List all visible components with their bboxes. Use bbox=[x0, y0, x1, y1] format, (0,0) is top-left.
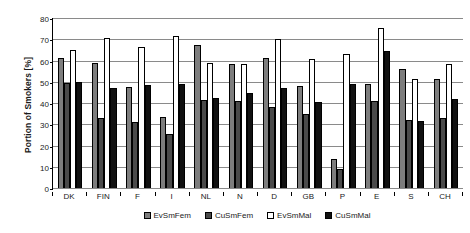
x-axis-label-S: S bbox=[394, 192, 428, 201]
y-tick-label-20: 20 bbox=[40, 142, 49, 151]
x-tick-F bbox=[120, 192, 121, 196]
bar-group-CH bbox=[429, 18, 463, 188]
bar-group-FIN bbox=[87, 18, 121, 188]
x-tick-end bbox=[462, 192, 463, 196]
x-tick-N bbox=[223, 192, 224, 196]
y-tick-label-70: 70 bbox=[40, 36, 49, 45]
legend-label-CuSmMal: CuSmMal bbox=[335, 211, 370, 220]
bar-D-CuSmMal bbox=[281, 88, 287, 188]
x-axis-label-P: P bbox=[325, 192, 359, 201]
x-tick-E bbox=[360, 192, 361, 196]
bar-group-F bbox=[121, 18, 155, 188]
x-tick-DK bbox=[52, 192, 53, 196]
chart-legend: EvSmFemCuSmFemEvSmMalCuSmMal bbox=[52, 211, 462, 220]
bar-groups bbox=[53, 18, 463, 188]
x-axis-label-DK: DK bbox=[52, 192, 86, 201]
bar-group-N bbox=[224, 18, 258, 188]
bar-group-NL bbox=[190, 18, 224, 188]
x-axis-label-NL: NL bbox=[189, 192, 223, 201]
x-axis-label-F: F bbox=[120, 192, 154, 201]
legend-item-CuSmFem[interactable]: CuSmFem bbox=[205, 211, 253, 220]
bar-S-CuSmMal bbox=[418, 121, 424, 188]
bar-group-I bbox=[156, 18, 190, 188]
y-tick-mark-0 bbox=[50, 189, 53, 190]
bar-N-CuSmMal bbox=[247, 93, 253, 188]
bar-NL-CuSmMal bbox=[213, 98, 219, 188]
legend-label-EvSmFem: EvSmFem bbox=[154, 211, 191, 220]
x-tick-GB bbox=[291, 192, 292, 196]
y-tick-label-60: 60 bbox=[40, 57, 49, 66]
x-tick-NL bbox=[189, 192, 190, 196]
bar-group-GB bbox=[292, 18, 326, 188]
bar-FIN-CuSmMal bbox=[110, 88, 116, 188]
y-tick-label-0: 0 bbox=[45, 185, 49, 194]
x-tick-FIN bbox=[86, 192, 87, 196]
x-tick-CH bbox=[428, 192, 429, 196]
bar-CH-CuSmMal bbox=[452, 99, 458, 188]
x-tick-D bbox=[257, 192, 258, 196]
x-axis-label-D: D bbox=[257, 192, 291, 201]
bar-GB-CuSmMal bbox=[315, 102, 321, 188]
plot-area: 01020304050607080 bbox=[52, 18, 463, 189]
bar-F-CuSmMal bbox=[145, 85, 151, 188]
y-axis-title: Portion of Smokers [%] bbox=[23, 15, 33, 195]
legend-label-CuSmFem: CuSmFem bbox=[215, 211, 253, 220]
bar-E-CuSmMal bbox=[384, 51, 390, 188]
x-tick-I bbox=[155, 192, 156, 196]
x-axis-label-FIN: FIN bbox=[86, 192, 120, 201]
legend-swatch-CuSmMal bbox=[325, 212, 332, 219]
bar-DK-CuSmMal bbox=[76, 82, 82, 188]
bar-I-CuSmMal bbox=[179, 84, 185, 188]
y-tick-label-40: 40 bbox=[40, 100, 49, 109]
y-tick-label-80: 80 bbox=[40, 15, 49, 24]
legend-label-EvSmMal: EvSmMal bbox=[277, 211, 311, 220]
gridline-0: 0 bbox=[53, 188, 463, 189]
x-axis-label-GB: GB bbox=[291, 192, 325, 201]
legend-item-CuSmMal[interactable]: CuSmMal bbox=[325, 211, 370, 220]
bar-group-D bbox=[258, 18, 292, 188]
x-axis-label-N: N bbox=[223, 192, 257, 201]
legend-item-EvSmFem[interactable]: EvSmFem bbox=[144, 211, 191, 220]
x-tick-P bbox=[325, 192, 326, 196]
bar-group-P bbox=[326, 18, 360, 188]
bar-group-E bbox=[361, 18, 395, 188]
x-axis-label-CH: CH bbox=[428, 192, 462, 201]
x-axis-label-E: E bbox=[360, 192, 394, 201]
legend-swatch-CuSmFem bbox=[205, 212, 212, 219]
y-tick-label-10: 10 bbox=[40, 163, 49, 172]
legend-swatch-EvSmMal bbox=[267, 212, 274, 219]
x-tick-S bbox=[394, 192, 395, 196]
y-tick-label-30: 30 bbox=[40, 121, 49, 130]
y-tick-label-50: 50 bbox=[40, 78, 49, 87]
legend-item-EvSmMal[interactable]: EvSmMal bbox=[267, 211, 311, 220]
x-axis-labels: DKFINFINLNDGBPESCH bbox=[52, 192, 462, 201]
legend-swatch-EvSmFem bbox=[144, 212, 151, 219]
x-axis-label-I: I bbox=[155, 192, 189, 201]
bar-group-DK bbox=[53, 18, 87, 188]
bar-P-CuSmMal bbox=[350, 84, 356, 188]
bar-group-S bbox=[395, 18, 429, 188]
smoker-portion-bar-chart: Portion of Smokers [%] 01020304050607080… bbox=[0, 0, 470, 233]
